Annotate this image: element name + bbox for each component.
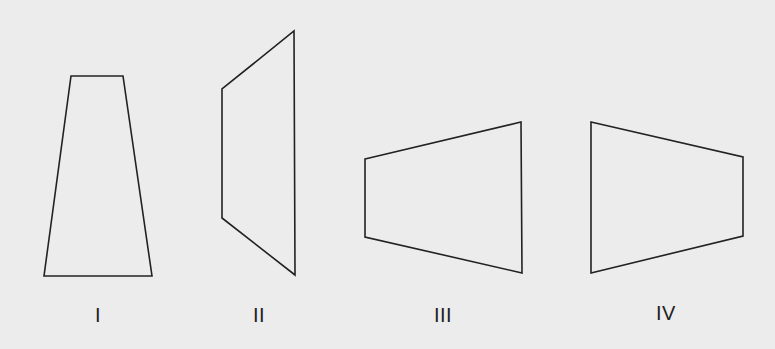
- label-ii: II: [253, 305, 265, 325]
- diagram-canvas: I II III IV: [0, 0, 775, 349]
- trapezoid-iii: [365, 122, 522, 273]
- trapezoid-ii: [222, 31, 295, 275]
- trapezoid-i: [44, 76, 152, 276]
- label-i: I: [95, 305, 101, 325]
- label-iv: IV: [656, 303, 676, 323]
- label-iii: III: [434, 305, 452, 325]
- shapes-svg: [0, 0, 775, 349]
- trapezoid-iv: [591, 122, 743, 273]
